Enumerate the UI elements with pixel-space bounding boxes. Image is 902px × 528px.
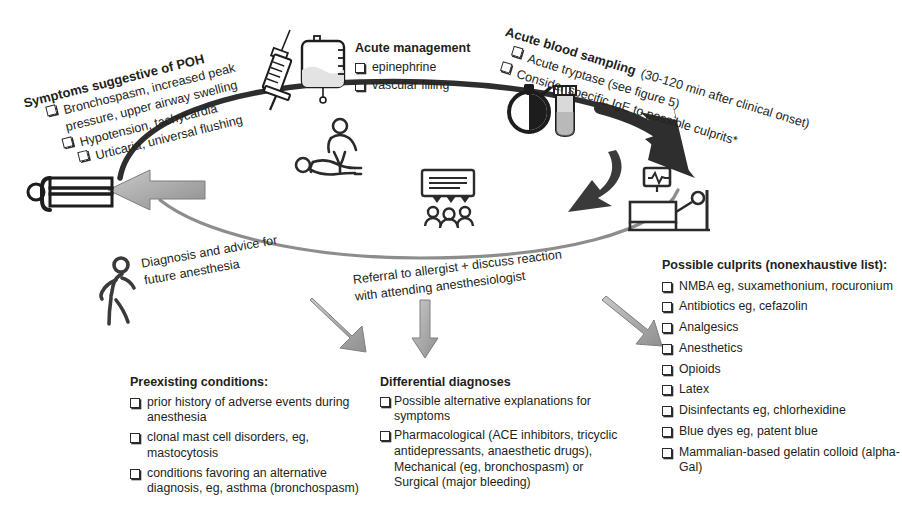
syringe-icon: [262, 30, 291, 110]
list-item: Pharmacological (ACE inhibitors, tricycl…: [380, 428, 618, 491]
list-item: vascular filling: [355, 78, 470, 94]
list-item: Antibiotics eg, cefazolin: [662, 299, 900, 315]
checkbox-icon[interactable]: [662, 344, 672, 354]
checkbox-icon[interactable]: [500, 61, 512, 73]
checkbox-icon[interactable]: [662, 385, 672, 395]
arrow-to-bed: [568, 150, 622, 212]
list-item: Disinfectants eg, chlorhexidine: [662, 403, 900, 419]
iv-bag-icon: [302, 36, 344, 103]
possible-culprits-list: NMBA eg, suxamethonium, rocuronium Antib…: [662, 279, 900, 476]
arrow-to-culprits: [602, 296, 662, 346]
preexisting-conditions-heading: Preexisting conditions:: [130, 375, 365, 391]
checkbox-icon[interactable]: [355, 63, 365, 73]
list-item: NMBA eg, suxamethonium, rocuronium: [662, 279, 900, 295]
checkbox-icon[interactable]: [61, 136, 73, 148]
checkbox-icon[interactable]: [511, 46, 523, 58]
checkbox-icon[interactable]: [130, 469, 140, 479]
possible-culprits-block: Possible culprits (nonexhaustive list): …: [662, 258, 900, 477]
team-discussion-icon: [422, 170, 474, 228]
acute-management-block: Acute management epinephrine vascular fi…: [355, 41, 470, 95]
list-item: Anesthetics: [662, 341, 900, 357]
list-item: prior history of adverse events during a…: [130, 395, 365, 426]
differential-diagnoses-block: Differential diagnoses Possible alternat…: [380, 375, 618, 492]
checkbox-icon[interactable]: [355, 81, 365, 91]
possible-culprits-heading: Possible culprits (nonexhaustive list):: [662, 258, 900, 274]
list-item: epinephrine: [355, 60, 470, 76]
checkbox-icon[interactable]: [662, 302, 672, 312]
list-item: clonal mast cell disorders, eg, mastocyt…: [130, 430, 365, 461]
acute-management-heading: Acute management: [355, 41, 470, 57]
figure-canvas: Symptoms suggestive of POH Bronchospasm,…: [0, 0, 902, 528]
list-item: conditions favoring an alternative diagn…: [130, 466, 365, 497]
checkbox-icon[interactable]: [130, 433, 140, 443]
hospital-bed-monitor-icon: [628, 168, 710, 230]
list-item: Mammalian-based gelatin colloid (alpha-G…: [662, 445, 900, 476]
checkbox-icon[interactable]: [380, 397, 390, 407]
list-item: Latex: [662, 382, 900, 398]
checkbox-icon[interactable]: [662, 365, 672, 375]
cpr-resuscitation-icon: [296, 119, 361, 175]
checkbox-icon[interactable]: [45, 104, 57, 116]
checkbox-icon[interactable]: [662, 406, 672, 416]
checkbox-icon[interactable]: [380, 431, 390, 441]
acute-management-list: epinephrine vascular filling: [355, 60, 470, 94]
checkbox-icon[interactable]: [130, 398, 140, 408]
checkbox-icon[interactable]: [77, 150, 89, 162]
list-item: Blue dyes eg, patent blue: [662, 424, 900, 440]
differential-diagnoses-list: Possible alternative explanations for sy…: [380, 394, 618, 491]
differential-diagnoses-heading: Differential diagnoses: [380, 375, 618, 391]
checkbox-icon[interactable]: [662, 427, 672, 437]
checkbox-icon[interactable]: [662, 448, 672, 458]
walking-person-icon: [101, 258, 134, 324]
preexisting-conditions-list: prior history of adverse events during a…: [130, 395, 365, 497]
checkbox-icon[interactable]: [662, 282, 672, 292]
list-item: Analgesics: [662, 320, 900, 336]
list-item: Possible alternative explanations for sy…: [380, 394, 618, 425]
checkbox-icon[interactable]: [662, 323, 672, 333]
patient-lying-icon: [28, 178, 112, 210]
preexisting-conditions-block: Preexisting conditions: prior history of…: [130, 375, 365, 498]
arrow-to-differential: [412, 300, 438, 358]
list-item: Opioids: [662, 362, 900, 378]
